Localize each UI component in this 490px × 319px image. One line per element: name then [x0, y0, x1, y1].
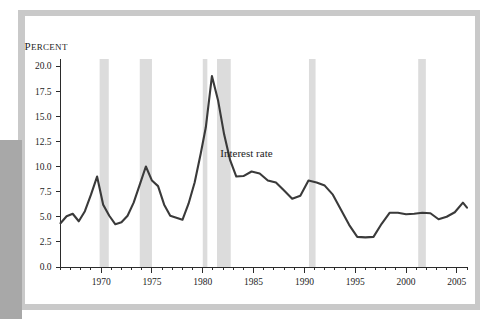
x-tick-label: 1975 — [142, 277, 161, 287]
y-tick-label: 20.0 — [35, 61, 52, 71]
y-tick-label: 0.0 — [40, 262, 52, 272]
x-tick-label: 1970 — [92, 277, 111, 287]
x-tick-label: 1990 — [295, 277, 314, 287]
chart-annotations: Interest rate — [220, 147, 272, 159]
y-tick-label: 5.0 — [40, 212, 52, 222]
y-tick-label: 2.5 — [40, 237, 52, 247]
x-axis-ticks: 19701975198019851990199520002005 — [61, 267, 468, 287]
series-annotation-label: Interest rate — [220, 147, 272, 159]
y-axis-title: PERCENT — [25, 40, 68, 52]
interest-rate-line-chart: 0.02.55.07.510.012.515.017.520.0 1970197… — [0, 0, 490, 319]
recession-band-1970 — [100, 59, 109, 267]
recession-band-1990 — [309, 59, 316, 267]
x-tick-label: 1980 — [193, 277, 212, 287]
x-tick-label: 2000 — [397, 277, 416, 287]
y-axis-ticks: 0.02.55.07.510.012.515.017.520.0 — [35, 61, 61, 272]
y-tick-label: 12.5 — [35, 137, 52, 147]
y-tick-label: 17.5 — [35, 87, 52, 97]
recession-band-1980 — [203, 59, 208, 267]
x-tick-label: 1985 — [244, 277, 263, 287]
y-tick-label: 10.0 — [35, 162, 52, 172]
recession-band-1982 — [217, 59, 231, 267]
chart-axes — [61, 59, 468, 267]
recession-band-1974 — [140, 59, 152, 267]
x-tick-label: 2005 — [447, 277, 466, 287]
x-tick-label: 1995 — [346, 277, 365, 287]
recession-bands-group — [100, 59, 426, 267]
y-tick-label: 7.5 — [40, 187, 52, 197]
y-tick-label: 15.0 — [35, 112, 52, 122]
chart-page: 0.02.55.07.510.012.515.017.520.0 1970197… — [0, 0, 490, 319]
recession-band-2001 — [418, 59, 426, 267]
